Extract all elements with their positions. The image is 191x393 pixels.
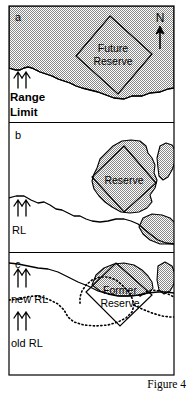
- panel-b-reserve-label-line1: Reserve: [104, 174, 143, 186]
- panel-a-range-limit-label-line2: Limit: [10, 106, 38, 118]
- figure-svg: a Future Reserve N Range Limit: [0, 0, 191, 393]
- panel-c-reserve-label-line1: Former: [103, 284, 137, 296]
- panel-c-new-range-limit-label: new RL: [11, 293, 48, 305]
- panel-c-label: c: [15, 258, 21, 270]
- compass-north-label: N: [156, 11, 165, 25]
- panel-a-species-range: [9, 6, 174, 99]
- figure-4-diagram: a Future Reserve N Range Limit: [0, 0, 191, 393]
- panel-b-range-limit-arrows: [14, 200, 30, 216]
- panel-b: b Reserve RL: [9, 129, 176, 244]
- panel-c: c Former Reserve new RL old RL: [9, 258, 175, 349]
- panel-b-range-patch-right-upper: [157, 143, 176, 180]
- panel-a-label: a: [15, 11, 22, 23]
- panel-c-range-patch-right: [157, 262, 175, 294]
- panel-a: a Future Reserve N Range Limit: [9, 6, 174, 118]
- panel-c-old-range-limit-arrows: [14, 312, 30, 330]
- panel-a-range-limit-label-line1: Range: [10, 91, 45, 103]
- panel-a-range-limit-arrows: [14, 72, 30, 88]
- panel-a-reserve-label-line1: Future: [98, 42, 129, 54]
- panel-a-reserve-label-line2: Reserve: [93, 55, 132, 67]
- panel-c-new-range-limit-arrows: [14, 269, 30, 287]
- panel-c-reserve-label-line2: Reserve: [100, 297, 139, 309]
- panel-c-old-range-limit-label: old RL: [11, 337, 43, 349]
- panel-b-range-limit-label: RL: [12, 224, 26, 236]
- panel-b-label: b: [15, 129, 21, 141]
- figure-caption: Figure 4: [147, 378, 186, 391]
